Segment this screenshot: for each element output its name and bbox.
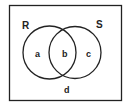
set-s-label: S — [96, 19, 103, 30]
venn-diagram: R S a b c d — [0, 0, 132, 108]
region-d-label: d — [64, 85, 70, 95]
set-s-circle — [49, 27, 101, 79]
region-c-label: c — [86, 49, 91, 59]
region-b-label: b — [62, 49, 68, 59]
region-a-label: a — [35, 49, 41, 59]
set-r-label: R — [22, 20, 30, 31]
